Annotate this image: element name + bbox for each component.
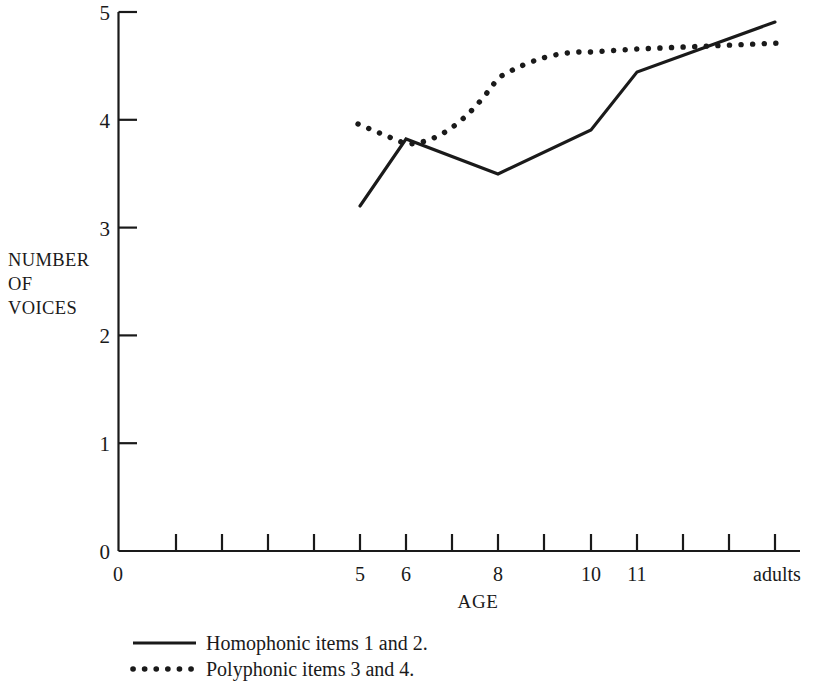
- y-tick-labels: 5 4 3 2 1 0: [100, 1, 111, 564]
- y-tick-label-2: 2: [100, 324, 111, 348]
- y-tick-label-1: 1: [100, 432, 111, 456]
- series-homophonic-line: [360, 22, 775, 206]
- series-polyphonic-line: [358, 43, 780, 144]
- chart-legend: Homophonic items 1 and 2. Polyphonic ite…: [133, 632, 428, 681]
- chart-figure: 5 4 3 2 1 0 0 5 6: [0, 0, 819, 689]
- y-axis-title-line-2: OF: [8, 274, 32, 294]
- y-tick-label-4: 4: [100, 109, 111, 133]
- y-tick-marks: [119, 12, 138, 443]
- x-tick-marks: [176, 534, 775, 551]
- y-axis-title-line-3: VOICES: [8, 298, 77, 318]
- x-tick-label-8: 8: [493, 563, 503, 585]
- x-tick-label-10: 10: [581, 563, 601, 585]
- x-tick-label-adults: adults: [753, 563, 801, 585]
- x-tick-label-11: 11: [627, 563, 646, 585]
- x-tick-label-6: 6: [401, 563, 411, 585]
- x-tick-label-5: 5: [355, 563, 365, 585]
- line-chart-svg: 5 4 3 2 1 0 0 5 6: [0, 0, 819, 689]
- legend-label-polyphonic: Polyphonic items 3 and 4.: [206, 658, 414, 681]
- y-tick-label-5: 5: [100, 1, 111, 25]
- y-axis-title-line-1: NUMBER: [8, 250, 90, 270]
- x-origin-label: 0: [113, 563, 123, 585]
- legend-label-homophonic: Homophonic items 1 and 2.: [206, 632, 428, 655]
- y-tick-label-3: 3: [100, 217, 111, 241]
- y-axis-title: NUMBER OF VOICES: [8, 250, 90, 318]
- y-tick-label-0: 0: [100, 540, 111, 564]
- x-tick-labels: 0 5 6 8 10 11 adults: [113, 563, 801, 585]
- x-axis-title: AGE: [458, 591, 499, 612]
